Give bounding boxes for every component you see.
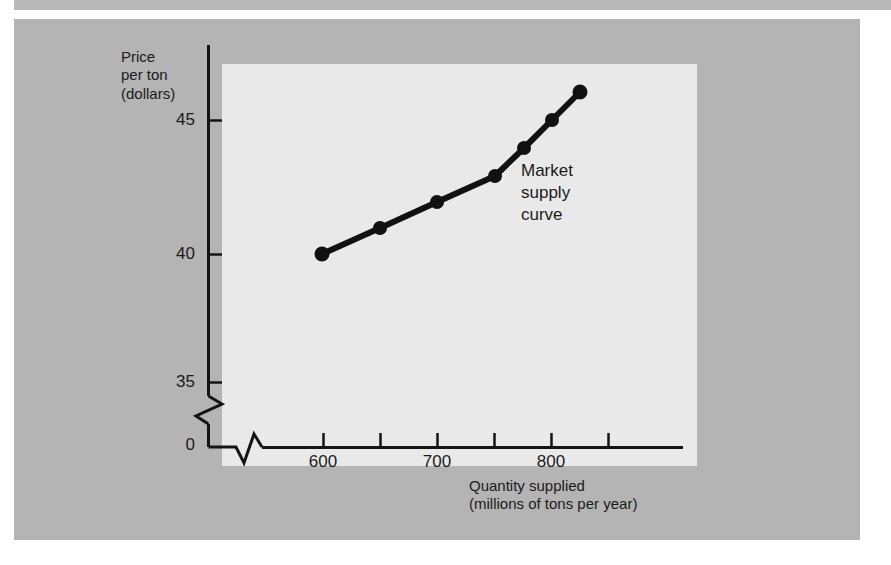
data-point <box>517 141 531 155</box>
data-point <box>315 247 330 262</box>
data-point <box>573 85 588 100</box>
y-tick-marks <box>208 121 222 383</box>
x-tick-label-800: 800 <box>521 452 581 472</box>
y-axis-break-icon <box>196 396 222 424</box>
x-tick-label-700: 700 <box>407 452 467 472</box>
x-axis-title: Quantity supplied (millions of tons per … <box>469 477 637 514</box>
figure-page: Price per ton (dollars) 45 40 35 0 600 7… <box>0 0 891 565</box>
data-point <box>488 169 502 183</box>
y-tick-label-45: 45 <box>155 110 195 130</box>
y-tick-label-0: 0 <box>155 435 195 455</box>
x-tick-marks <box>324 433 609 447</box>
y-axis-title: Price per ton (dollars) <box>121 48 175 103</box>
y-tick-label-40: 40 <box>155 244 195 264</box>
data-point <box>430 195 444 209</box>
data-point <box>545 113 559 127</box>
data-point <box>373 221 387 235</box>
y-tick-label-35: 35 <box>155 372 195 392</box>
x-axis-break-icon <box>209 434 263 463</box>
x-tick-label-600: 600 <box>293 452 353 472</box>
series-annotation-market-supply-curve: Market supply curve <box>521 160 573 225</box>
